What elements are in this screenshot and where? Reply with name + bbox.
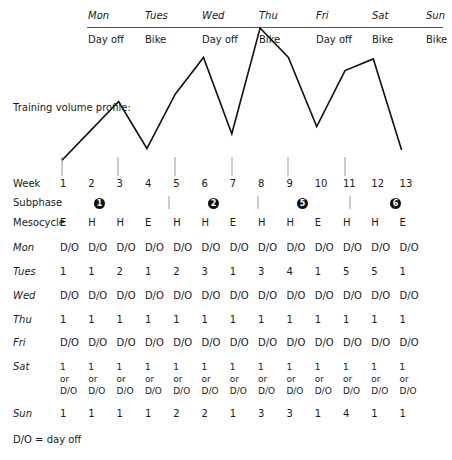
fri-cell: D/O <box>230 337 249 348</box>
header-day: Tues <box>145 10 168 21</box>
week-number: 2 <box>88 178 94 189</box>
mon-cell: D/O <box>400 242 419 253</box>
thu-cell: 1 <box>202 314 208 325</box>
week-number: 1 <box>60 178 66 189</box>
mon-cell: D/O <box>371 242 390 253</box>
header-day: Fri <box>316 10 329 21</box>
mesocycle-cell: H <box>258 217 266 228</box>
mesocycle-cell: H <box>343 217 351 228</box>
subphase-badge: 6 <box>390 198 401 209</box>
sun-cell: 1 <box>117 408 123 419</box>
tues-cell: 2 <box>173 266 179 277</box>
week-number: 3 <box>117 178 123 189</box>
week-number: 4 <box>145 178 151 189</box>
tues-cell: 1 <box>88 266 94 277</box>
fri-cell: D/O <box>286 337 305 348</box>
header-day: Sat <box>372 10 388 21</box>
sun-cell: 1 <box>145 408 151 419</box>
mon-cell: D/O <box>117 242 136 253</box>
mon-cell: D/O <box>343 242 362 253</box>
tues-cell: 3 <box>202 266 208 277</box>
header-day: Thu <box>259 10 278 21</box>
row-label: Wed <box>13 290 35 301</box>
sun-cell: 3 <box>286 408 292 419</box>
chart-label: Training volume profile: <box>13 102 131 113</box>
wed-cell: D/O <box>117 290 136 301</box>
row-label: Fri <box>13 337 26 348</box>
row-label: Tues <box>13 266 36 277</box>
header-activity: Day off <box>88 34 124 45</box>
subphase-badge: 1 <box>94 198 105 209</box>
tues-cell: 1 <box>60 266 66 277</box>
thu-cell: 1 <box>315 314 321 325</box>
fri-cell: D/O <box>371 337 390 348</box>
week-number: 5 <box>173 178 179 189</box>
week-number: 12 <box>371 178 384 189</box>
fri-cell: D/O <box>145 337 164 348</box>
header-day: Mon <box>88 10 109 21</box>
row-label: Sat <box>13 361 29 372</box>
mesocycle-cell: H <box>88 217 96 228</box>
wed-cell: D/O <box>230 290 249 301</box>
sat-cell: 1orD/O <box>88 361 105 397</box>
fri-cell: D/O <box>88 337 107 348</box>
mesocycle-cell: E <box>230 217 236 228</box>
mesocycle-cell: E <box>60 217 66 228</box>
row-label: Subphase <box>13 197 62 208</box>
fri-cell: D/O <box>258 337 277 348</box>
mon-cell: D/O <box>315 242 334 253</box>
thu-cell: 1 <box>230 314 236 325</box>
tues-cell: 1 <box>400 266 406 277</box>
thu-cell: 1 <box>173 314 179 325</box>
sat-cell: 1orD/O <box>173 361 190 397</box>
wed-cell: D/O <box>145 290 164 301</box>
wed-cell: D/O <box>202 290 221 301</box>
week-number: 7 <box>230 178 236 189</box>
fri-cell: D/O <box>60 337 79 348</box>
thu-cell: 1 <box>286 314 292 325</box>
week-number: 10 <box>315 178 328 189</box>
sat-cell: 1orD/O <box>315 361 332 397</box>
wed-cell: D/O <box>258 290 277 301</box>
footnote: D/O = day off <box>13 434 81 445</box>
sun-cell: 2 <box>202 408 208 419</box>
header-activity: Bike <box>145 34 166 45</box>
mesocycle-cell: H <box>202 217 210 228</box>
wed-cell: D/O <box>60 290 79 301</box>
sun-cell: 2 <box>173 408 179 419</box>
fri-cell: D/O <box>117 337 136 348</box>
mesocycle-cell: E <box>315 217 321 228</box>
wed-cell: D/O <box>286 290 305 301</box>
thu-cell: 1 <box>258 314 264 325</box>
row-label: Mesocycle <box>13 217 65 228</box>
wed-cell: D/O <box>343 290 362 301</box>
sat-cell: 1orD/O <box>117 361 134 397</box>
sat-cell: 1orD/O <box>371 361 388 397</box>
sat-cell: 1orD/O <box>286 361 303 397</box>
sat-cell: 1orD/O <box>202 361 219 397</box>
tues-cell: 3 <box>258 266 264 277</box>
sat-cell: 1orD/O <box>230 361 247 397</box>
week-number: 11 <box>343 178 356 189</box>
tues-cell: 1 <box>145 266 151 277</box>
mesocycle-cell: E <box>400 217 406 228</box>
mon-cell: D/O <box>173 242 192 253</box>
tues-cell: 5 <box>371 266 377 277</box>
mon-cell: D/O <box>202 242 221 253</box>
thu-cell: 1 <box>343 314 349 325</box>
mesocycle-cell: H <box>286 217 294 228</box>
sat-cell: 1orD/O <box>400 361 417 397</box>
thu-cell: 1 <box>117 314 123 325</box>
tues-cell: 1 <box>315 266 321 277</box>
wed-cell: D/O <box>88 290 107 301</box>
fri-cell: D/O <box>202 337 221 348</box>
week-number: 9 <box>286 178 292 189</box>
sun-cell: 1 <box>60 408 66 419</box>
tues-cell: 4 <box>286 266 292 277</box>
sat-cell: 1orD/O <box>343 361 360 397</box>
mesocycle-cell: H <box>371 217 379 228</box>
mesocycle-cell: H <box>117 217 125 228</box>
sun-cell: 1 <box>371 408 377 419</box>
week-number: 13 <box>400 178 413 189</box>
mon-cell: D/O <box>145 242 164 253</box>
